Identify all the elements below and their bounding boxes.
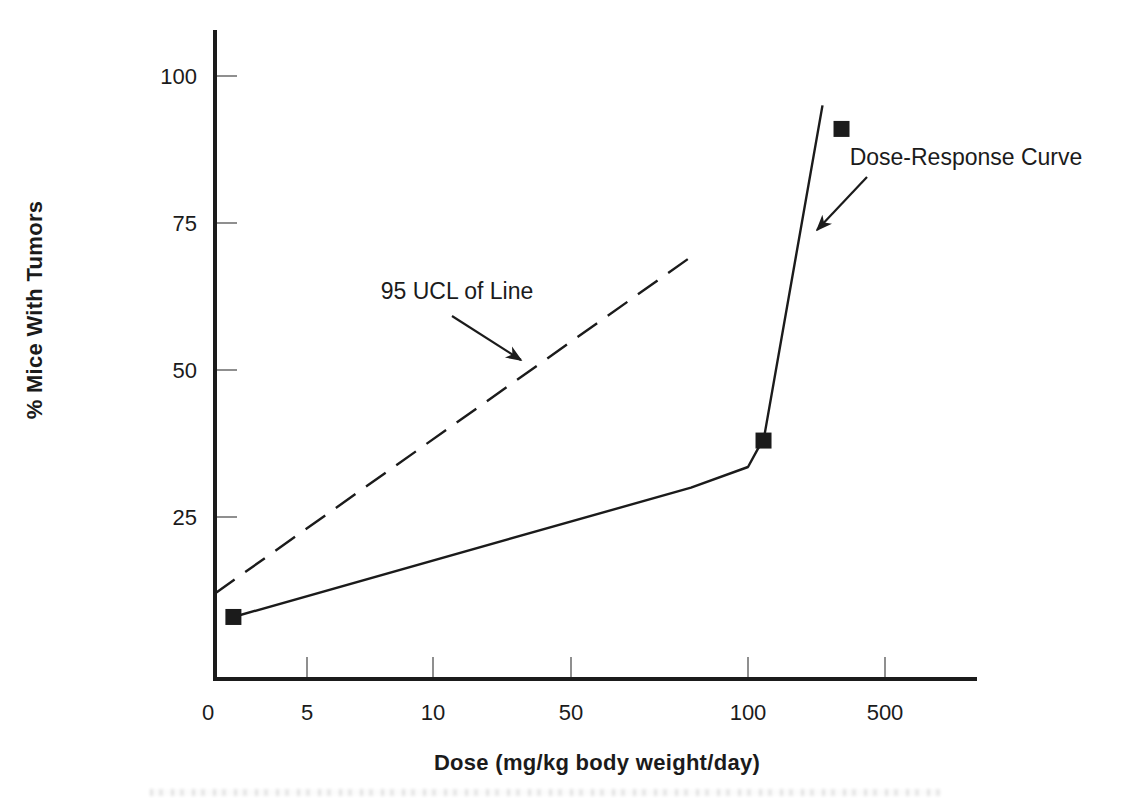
data-series xyxy=(215,105,850,625)
y-tick-label: 75 xyxy=(173,211,197,236)
data-point-marker xyxy=(756,433,772,449)
y-tick-label: 25 xyxy=(173,505,197,530)
y-tick-label: 50 xyxy=(173,358,197,383)
annotations: 95 UCL of LineDose-Response Curve xyxy=(381,144,1083,360)
x-tick-label: 100 xyxy=(730,700,767,725)
x-axis-title: Dose (mg/kg body weight/day) xyxy=(434,750,760,775)
x-tick-label: 0 xyxy=(202,700,214,725)
y-tick-label: 100 xyxy=(160,64,197,89)
x-tick-label: 10 xyxy=(421,700,445,725)
y-axis-title: % Mice With Tumors xyxy=(22,201,47,420)
annotation-arrow xyxy=(452,316,521,360)
axes: 255075100051050100500 xyxy=(160,30,977,725)
dose-response-figure: 255075100051050100500 95 UCL of LineDose… xyxy=(0,0,1121,798)
data-point-marker xyxy=(225,609,241,625)
annotation-label: Dose-Response Curve xyxy=(850,144,1083,170)
annotation-arrow xyxy=(817,177,867,230)
scan-artifact xyxy=(150,789,940,796)
x-tick-label: 5 xyxy=(301,700,313,725)
chart-canvas: 255075100051050100500 95 UCL of LineDose… xyxy=(0,0,1121,798)
dose-response-line xyxy=(233,105,822,617)
annotation-label: 95 UCL of Line xyxy=(381,278,534,304)
x-tick-label: 50 xyxy=(559,700,583,725)
data-point-marker xyxy=(834,121,850,137)
x-tick-label: 500 xyxy=(867,700,904,725)
